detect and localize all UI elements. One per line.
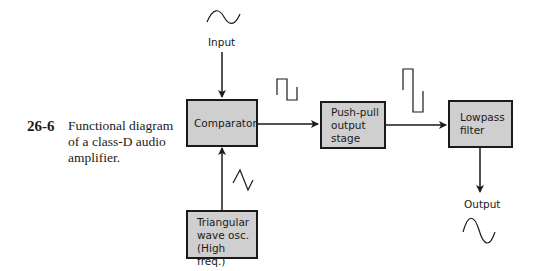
input-label: Input [208,36,235,48]
triangle-wave-icon [233,170,253,190]
pwm-square-wave-icon [277,79,297,100]
lowpass-label: Lowpass filter [460,111,505,137]
output-label: Output [464,198,500,210]
sine-wave-icon [207,11,240,24]
oscillator-label: Triangular wave osc. (High freq.) [197,216,256,268]
comparator-block: Comparator [186,99,258,147]
triangular-oscillator-block: Triangular wave osc. (High freq.) [186,210,258,259]
lowpass-filter-block: Lowpass filter [448,100,513,148]
amplified-sine-wave-icon [463,218,495,243]
push-pull-label: Push-pull output stage [331,106,379,145]
amplified-square-wave-icon [403,69,423,112]
push-pull-stage-block: Push-pull output stage [320,101,386,149]
comparator-label: Comparator [194,117,257,130]
